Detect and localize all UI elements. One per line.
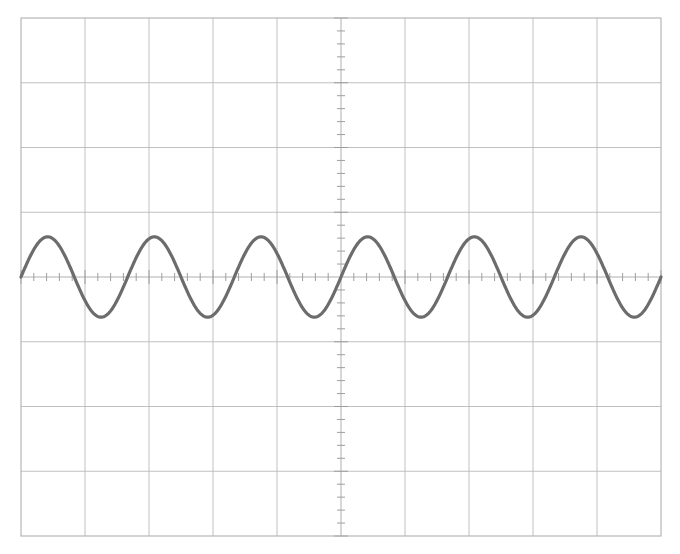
scope-canvas (0, 0, 680, 554)
oscilloscope-display (0, 0, 680, 554)
